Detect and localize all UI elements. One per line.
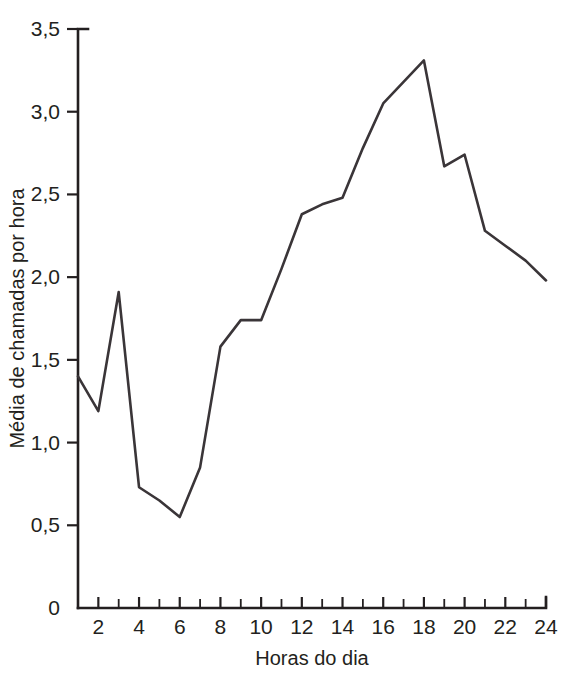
y-axis-tick-label: 2,0 xyxy=(31,265,60,288)
y-axis-tick-label: 0 xyxy=(48,596,60,619)
chart-container: 00,51,01,52,02,53,03,5 24681012141618202… xyxy=(0,0,575,675)
x-axis-tick-label: 12 xyxy=(290,615,313,638)
line-chart: 00,51,01,52,02,53,03,5 24681012141618202… xyxy=(0,0,575,675)
y-axis-tick-label: 0,5 xyxy=(31,513,60,536)
x-axis-tick-label: 20 xyxy=(453,615,476,638)
x-axis-title: Horas do dia xyxy=(255,647,369,669)
x-axis-tick-label: 16 xyxy=(372,615,395,638)
x-axis-tick-label: 24 xyxy=(534,615,558,638)
y-axis-title: Média de chamadas por hora xyxy=(6,188,28,449)
y-axis-ticks xyxy=(67,29,78,525)
y-axis-tick-label: 3,0 xyxy=(31,100,60,123)
x-axis-tick-label: 22 xyxy=(494,615,517,638)
y-axis-tick-label: 2,5 xyxy=(31,182,60,205)
x-axis-tick-label: 8 xyxy=(215,615,227,638)
x-axis-tick-labels: 24681012141618202224 xyxy=(93,615,558,638)
y-axis-tick-label: 1,0 xyxy=(31,431,60,454)
x-axis-ticks xyxy=(78,597,546,608)
x-axis-tick-label: 2 xyxy=(93,615,105,638)
x-axis-tick-label: 14 xyxy=(331,615,355,638)
x-axis-tick-label: 4 xyxy=(133,615,145,638)
x-axis-line xyxy=(78,597,546,608)
data-series-line xyxy=(78,60,546,517)
y-axis-line xyxy=(78,29,88,608)
x-axis-tick-label: 6 xyxy=(174,615,186,638)
y-axis-tick-label: 3,5 xyxy=(31,17,60,40)
x-axis-tick-label: 10 xyxy=(249,615,272,638)
x-axis-tick-label: 18 xyxy=(412,615,435,638)
y-axis-tick-labels: 00,51,01,52,02,53,03,5 xyxy=(31,17,60,619)
y-axis-tick-label: 1,5 xyxy=(31,348,60,371)
